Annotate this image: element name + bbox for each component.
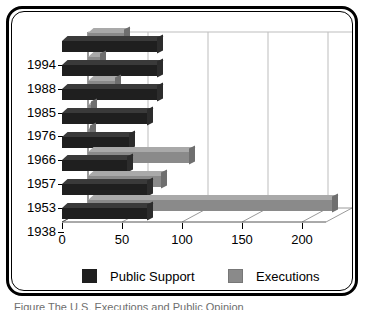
bar-public-support-1957 [62,160,128,171]
x-axis-tick-label-0: 0 [58,232,65,247]
bar-top [62,36,164,41]
bar-top [88,171,168,176]
chart-plot-area: 19941988198519761966195719531938 0501001… [18,18,352,284]
y-axis-tick-label-1953: 1953 [27,201,56,215]
bar-face [62,89,158,100]
bar-end-cap [147,106,153,125]
bar-top [62,84,164,89]
legend-swatch-icon [228,269,243,283]
bar-top [62,60,164,65]
chart-canvas [62,18,352,223]
bar-top [62,132,136,137]
legend-label: Executions [256,269,320,284]
bar-end-cap [147,202,153,221]
y-axis-labels: 19941988198519761966195719531938 [18,18,64,218]
bar-face [62,160,128,171]
bar-end-cap [157,58,163,77]
y-axis-tick-label-1994: 1994 [27,58,56,72]
x-axis-tick-150 [242,223,243,229]
figure-caption: Figure The U.S. Executions and Public Op… [14,301,354,310]
bar-public-support-1953 [62,184,148,195]
bar-public-support-1988 [62,65,158,76]
bar-top [62,203,154,208]
legend-item-public-support[interactable]: Public Support [82,266,195,286]
bar-end-cap [147,178,153,197]
x-axis-tick-label-100: 100 [171,232,193,247]
bar-top [62,155,134,160]
bar-top [88,147,196,152]
x-axis-tick-0 [62,223,63,229]
figure-container: 19941988198519761966195719531938 0501001… [0,0,370,310]
bar-top [62,179,154,184]
y-axis-tick-label-1938: 1938 [27,225,56,239]
chart-bars [62,18,352,223]
x-axis-tick-label-200: 200 [291,232,313,247]
x-axis-tick-label-150: 150 [231,232,253,247]
y-axis-tick-label-1966: 1966 [27,153,56,167]
bar-public-support-1976 [62,113,148,124]
bar-end-cap [161,170,167,189]
x-axis-tick-100 [182,223,183,229]
bar-end-cap [332,194,338,213]
y-axis-tick-label-1957: 1957 [27,177,56,191]
bar-top [88,195,338,200]
x-axis-tick-label-50: 50 [115,232,129,247]
bar-face [62,41,158,52]
x-axis-tick-50 [122,223,123,229]
bar-public-support-1994 [62,41,158,52]
bar-face [62,184,148,195]
x-axis-labels: 050100150200 [62,232,362,250]
chart-legend: Public SupportExecutions [36,266,352,288]
bar-end-cap [157,82,163,101]
y-axis-tick-label-1988: 1988 [27,82,56,96]
bar-end-cap [189,146,195,165]
bar-face [62,137,130,148]
legend-item-executions[interactable]: Executions [228,266,320,286]
bar-public-support-1938 [62,208,148,219]
bar-end-cap [157,34,163,53]
bar-public-support-1966 [62,137,130,148]
bar-public-support-1985 [62,89,158,100]
legend-label: Public Support [110,269,195,284]
bar-face [62,65,158,76]
bar-face [62,113,148,124]
x-axis-tick-200 [302,223,303,229]
bar-face [62,208,148,219]
y-axis-tick-label-1976: 1976 [27,129,56,143]
y-axis-tick-label-1985: 1985 [27,106,56,120]
bar-top [62,108,154,113]
legend-swatch-icon [82,269,97,283]
